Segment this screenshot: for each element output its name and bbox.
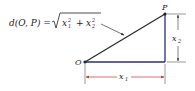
vertical-dimension-base: x	[172, 34, 177, 43]
radicand-term1-sub: 1	[68, 23, 71, 29]
radicand-term1-base: x	[62, 18, 67, 28]
vertical-dimension-sub: 2	[177, 38, 181, 44]
radicand-term2-sub: 2	[91, 23, 95, 29]
origin-label: O	[75, 58, 82, 67]
diagram-svg: d(O, P) = x 2 1 + x 2 2 O P x 2	[0, 0, 195, 91]
origin-point	[83, 60, 86, 63]
horizontal-dimension-base: x	[119, 72, 124, 81]
pointer-arrow-icon	[101, 24, 124, 35]
formula-lhs: d(O, P) =	[9, 18, 51, 28]
point-p	[163, 12, 166, 15]
horizontal-dimension-sub: 1	[125, 76, 128, 82]
hypotenuse	[85, 14, 165, 62]
plus-sign: +	[76, 18, 84, 28]
radicand-term2-base: x	[86, 18, 91, 28]
point-p-label: P	[161, 3, 168, 12]
distance-formula-diagram: d(O, P) = x 2 1 + x 2 2 O P x 2	[0, 0, 195, 91]
